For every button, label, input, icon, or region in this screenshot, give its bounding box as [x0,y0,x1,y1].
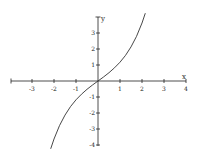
y-axis-label: y [100,15,105,23]
y-tick-label: -3 [89,125,95,132]
x-tick-label: 4 [184,85,188,92]
function-graph: -3 -2 -1 1 2 3 4 3 2 1 -1 -2 -3 -4 x y [0,0,200,155]
y-tick-label: 3 [91,29,95,36]
x-axis-label: x [182,73,186,81]
x-tick-label: -3 [29,85,35,92]
y-tick-label: -4 [89,141,95,148]
y-tick-label: -1 [89,93,95,100]
chart-svg: -3 -2 -1 1 2 3 4 3 2 1 -1 -2 -3 -4 x y [0,0,200,155]
y-tick-label: 2 [91,45,95,52]
y-tick-label: 1 [91,61,95,68]
x-tick-label: 2 [140,85,144,92]
y-tick-label: -2 [89,109,95,116]
x-tick-label: -2 [51,85,57,92]
x-tick-label: -1 [73,85,79,92]
x-tick-labels: -3 -2 -1 1 2 3 4 [29,85,188,92]
y-tick-labels: 3 2 1 -1 -2 -3 -4 [89,29,95,148]
x-tick-label: 3 [162,85,166,92]
x-tick-label: 1 [118,85,122,92]
